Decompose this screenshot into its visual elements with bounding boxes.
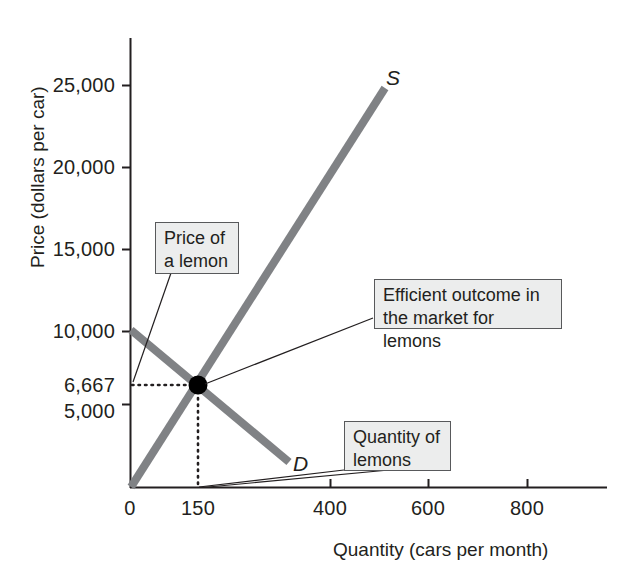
chart-figure: Price (dollars per car) Quantity (cars p… (0, 0, 621, 572)
demand-curve (131, 330, 289, 462)
callout-efficient-outcome: Efficient outcome in the market for lemo… (374, 279, 562, 329)
supply-curve-label: S (386, 66, 400, 90)
x-tick-label-800: 800 (497, 497, 557, 520)
equilibrium-point-marker (189, 376, 208, 395)
leader-line-price-of-lemon (133, 273, 171, 382)
leader-line-quantity-of-lemons (199, 470, 344, 487)
demand-curve-label: D (293, 452, 308, 476)
callout-quantity-of-lemons: Quantity of lemons (344, 421, 451, 471)
y-tick-label-15000: 15,000 (19, 238, 115, 261)
y-tick-label-10000: 10,000 (19, 320, 115, 343)
x-tick-label-150: 150 (168, 497, 228, 520)
x-tick-label-0: 0 (110, 497, 150, 520)
y-tick-label-6667: 6,667 (19, 374, 115, 397)
y-tick-label-5000: 5,000 (19, 400, 115, 423)
x-axis-title: Quantity (cars per month) (333, 539, 548, 561)
y-tick-label-25000: 25,000 (19, 74, 115, 97)
x-tick-label-400: 400 (300, 497, 360, 520)
callout-price-of-a-lemon: Price of a lemon (155, 222, 239, 274)
x-tick-label-600: 600 (398, 497, 458, 520)
y-tick-label-20000: 20,000 (19, 156, 115, 179)
